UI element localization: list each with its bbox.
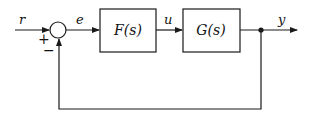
label-r: r bbox=[19, 12, 26, 27]
minus-sign: − bbox=[43, 42, 55, 58]
block-controller-label: F(s) bbox=[113, 22, 142, 38]
label-e: e bbox=[76, 12, 84, 27]
label-u: u bbox=[164, 12, 172, 27]
label-y: y bbox=[277, 12, 286, 27]
block-plant-label: G(s) bbox=[196, 22, 225, 38]
block-diagram: r + − e F(s) u G(s) y bbox=[0, 0, 311, 116]
summing-junction bbox=[50, 22, 66, 38]
